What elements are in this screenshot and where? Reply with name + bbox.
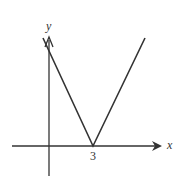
vertex-tick-label: 3	[90, 150, 96, 162]
x-axis-label: x	[167, 139, 172, 151]
y-axis-label: y	[46, 20, 51, 32]
absolute-value-graph	[43, 38, 145, 146]
